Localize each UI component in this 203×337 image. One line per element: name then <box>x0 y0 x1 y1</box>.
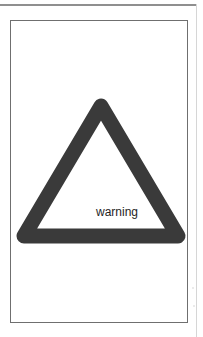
scan-speck <box>193 305 195 307</box>
warning-triangle-icon <box>0 0 203 337</box>
warning-label: warning <box>96 205 138 219</box>
page: warning <box>0 0 203 337</box>
scan-speck <box>192 287 194 289</box>
